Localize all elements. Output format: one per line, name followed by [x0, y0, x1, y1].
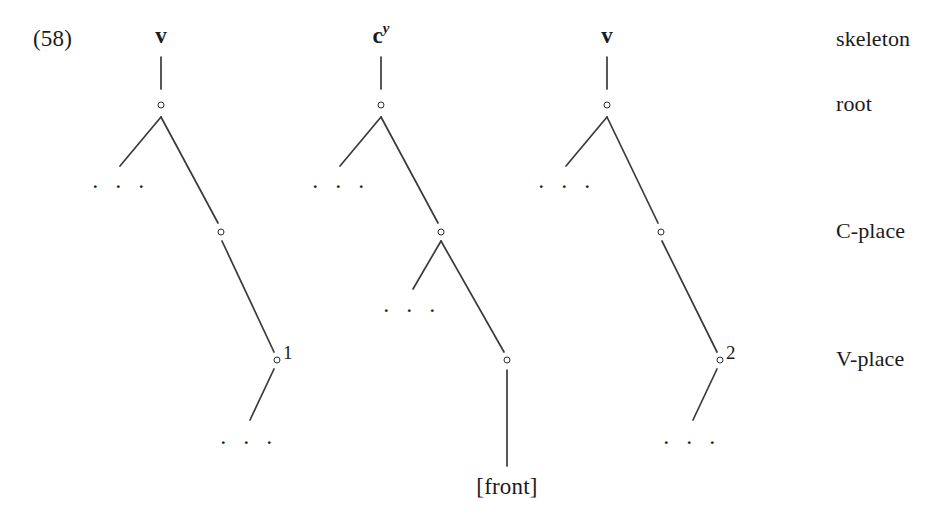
- tree-3-vplace-branch: [693, 369, 717, 420]
- example-number: (58): [33, 26, 72, 52]
- tree-1-skeleton-label: v: [155, 23, 167, 49]
- tree-1-root-right-branch: [161, 117, 218, 223]
- tree-1-vplace-branch: [250, 369, 274, 420]
- tree-1-v-place-index: 1: [283, 342, 293, 364]
- tree-1-root-node: [158, 102, 165, 109]
- tree-3-root-ellipsis: . . .: [538, 167, 596, 194]
- tree-1-root-ellipsis: . . .: [92, 167, 150, 194]
- tree-2-root-left-branch: [340, 117, 381, 166]
- tree-1-bottom-ellipsis: . . .: [220, 423, 278, 450]
- tree-1-cplace-branch: [222, 241, 274, 352]
- tree-2-c-place-ellipsis: . . .: [383, 291, 441, 318]
- tree-1-c-place-node: [218, 229, 225, 236]
- tree-2-v-place-node: [504, 357, 511, 364]
- tier-label-skeleton: skeleton: [836, 26, 910, 52]
- tree-2-terminal-feature: [front]: [476, 474, 537, 500]
- tree-3-skeleton-label: v: [601, 23, 613, 49]
- tree-3-root-left-branch: [566, 117, 607, 166]
- tree-3-v-place-node: [717, 357, 724, 364]
- tree-3-c-place-node: [658, 229, 665, 236]
- tier-label-root: root: [836, 91, 872, 117]
- tree-2-skeleton-label: cy: [373, 23, 390, 49]
- tree-1-skeleton-text: v: [155, 23, 167, 48]
- tree-2-skeleton-superscript: y: [383, 20, 390, 36]
- tier-label-v-place: V-place: [836, 346, 904, 372]
- tree-3-skeleton-text: v: [601, 23, 613, 48]
- tree-3-root-node: [604, 102, 611, 109]
- figure-canvas: (58) skeleton root C-place V-place v . .…: [0, 0, 952, 525]
- tree-3-root-right-branch: [607, 117, 658, 223]
- tree-2-c-place-node: [438, 229, 445, 236]
- tree-2-root-ellipsis: . . .: [312, 167, 370, 194]
- tree-3-v-place-index: 2: [726, 342, 736, 364]
- tier-label-c-place: C-place: [836, 218, 905, 244]
- tree-2-cplace-left-branch: [413, 241, 441, 289]
- tree-2-root-right-branch: [381, 117, 438, 223]
- tree-2-skeleton-text: c: [373, 23, 383, 48]
- tree-3-cplace-branch: [662, 241, 717, 352]
- tree-1-root-left-branch: [120, 117, 161, 166]
- tree-1-v-place-node: [274, 357, 281, 364]
- tree-2-cplace-right-branch: [441, 241, 504, 352]
- tree-3-bottom-ellipsis: . . .: [663, 423, 721, 450]
- tree-2-root-node: [378, 102, 385, 109]
- tree-edges-layer: [0, 0, 952, 525]
